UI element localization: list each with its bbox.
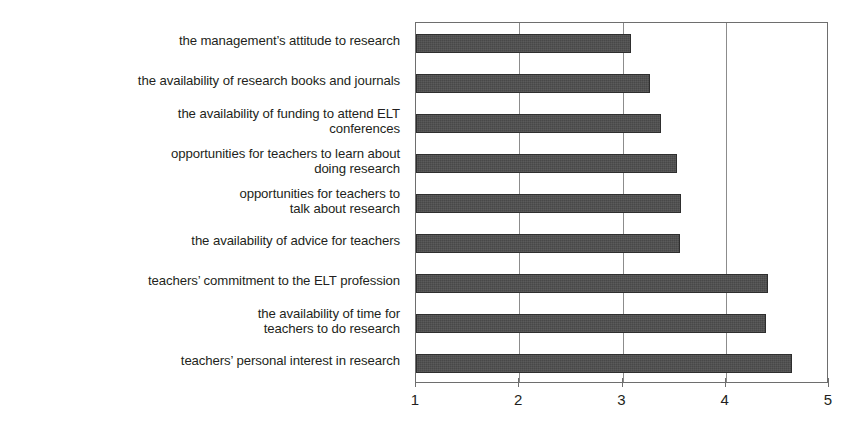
bar (416, 154, 677, 173)
tick-mark-4 (725, 378, 726, 387)
category-label: the management’s attitude to research (0, 33, 400, 49)
category-label: teachers’ commitment to the ELT professi… (0, 273, 400, 289)
category-label: opportunities for teachers to talk about… (0, 186, 400, 217)
x-tick-label-1: 1 (395, 391, 435, 408)
x-tick-label-4: 4 (705, 391, 745, 408)
bar (416, 314, 766, 333)
bar (416, 194, 681, 213)
bar (416, 74, 650, 93)
tick-mark-3 (622, 378, 623, 387)
bar (416, 34, 631, 53)
x-axis-ticks: 12345 (415, 382, 828, 422)
bar (416, 274, 768, 293)
plot-area (415, 22, 828, 382)
bar (416, 234, 680, 253)
tick-mark-2 (518, 378, 519, 387)
category-label: the availability of advice for teachers (0, 233, 400, 249)
tick-mark-1 (415, 378, 416, 387)
category-label: the availability of research books and j… (0, 73, 400, 89)
tick-mark-5 (828, 378, 829, 387)
x-tick-label-3: 3 (602, 391, 642, 408)
bar-chart: the management’s attitude to researchthe… (0, 0, 866, 446)
category-label: the availability of funding to attend EL… (0, 106, 400, 137)
category-label: opportunities for teachers to learn abou… (0, 146, 400, 177)
x-tick-label-5: 5 (808, 391, 848, 408)
category-label: the availability of time for teachers to… (0, 306, 400, 337)
bar (416, 114, 661, 133)
x-tick-label-2: 2 (498, 391, 538, 408)
category-axis-labels: the management’s attitude to researchthe… (0, 22, 408, 382)
category-label: teachers’ personal interest in research (0, 353, 400, 369)
bar (416, 354, 792, 373)
